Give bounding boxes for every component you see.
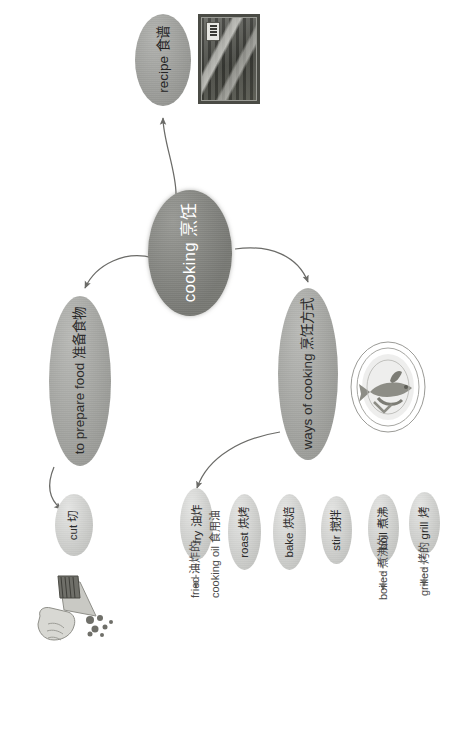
label-fried-text: fried 油炸的 (186, 541, 202, 598)
photo-badge-icon (206, 22, 220, 41)
node-stir[interactable]: stir 搅拌 (321, 496, 352, 564)
label-cooking-oil: cooking oil 食用油 (206, 598, 294, 614)
node-stir-label: stir 搅拌 (330, 510, 343, 551)
hand-cutting-with-knife-illustration (34, 572, 130, 656)
node-roast[interactable]: roast 烘烤 (228, 494, 261, 570)
node-ways-of-cooking-label: ways of cooking 烹饪方式 (300, 298, 315, 450)
node-grill-label: grill 烤 (418, 507, 431, 539)
node-cut-label: cut 切 (68, 510, 81, 540)
mindmap-canvas: recipe 食谱 cooking 烹饪 to prepare food 准备食… (0, 0, 454, 735)
node-cooking-central[interactable]: cooking 烹饪 (148, 190, 232, 316)
node-bake-label: bake 烘焙 (283, 507, 296, 557)
edge-ways-to-fry (197, 432, 280, 488)
node-fry-label: fry 油炸 (190, 505, 203, 543)
label-boiled-text: boiled 煮沸的 (374, 535, 390, 600)
edge-cooking-to-recipe (163, 118, 176, 194)
edge-cooking-to-ways (235, 248, 308, 282)
node-to-prepare-food-label: to prepare food 准备食物 (72, 307, 87, 454)
edge-cooking-to-prepare (85, 256, 153, 288)
node-cut[interactable]: cut 切 (55, 494, 93, 556)
node-cooking-label: cooking 烹饪 (180, 203, 199, 302)
node-ways-of-cooking[interactable]: ways of cooking 烹饪方式 (278, 288, 338, 460)
label-grilled-text: grilled 烤的 (415, 542, 431, 596)
label-grilled: grilled 烤的 (415, 596, 454, 612)
node-roast-label: roast 烘烤 (238, 507, 251, 558)
node-bake[interactable]: bake 烘焙 (273, 494, 306, 570)
label-cooking-oil-text: cooking oil 食用油 (206, 510, 222, 598)
node-recipe[interactable]: recipe 食谱 (135, 14, 191, 106)
node-recipe-label: recipe 食谱 (155, 27, 170, 94)
cooked-fish-plate-illustration (340, 340, 436, 434)
recipe-book-photo (198, 14, 260, 104)
node-to-prepare-food[interactable]: to prepare food 准备食物 (49, 296, 111, 466)
